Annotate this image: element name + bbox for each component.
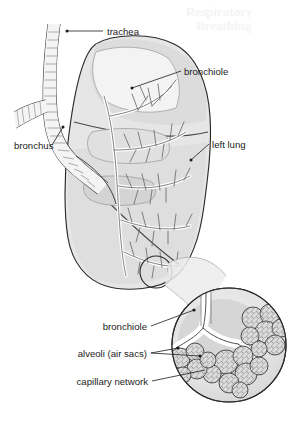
page-bleed-through: Respiratory Breathing (186, 4, 253, 33)
alveoli-label-text: alveoli (air sacs) (78, 348, 147, 359)
respiratory-system-diagram: Respiratory Breathing (0, 0, 292, 427)
bronchiole-upper-label-text: bronchiole (184, 66, 228, 77)
ghost-text-line2: Breathing (196, 18, 252, 33)
trachea-label-text: trachea (107, 26, 140, 37)
capillary-network-label-text: capillary network (77, 376, 149, 387)
bronchus-label-text: bronchus (14, 140, 54, 151)
left-lung-label-text: left lung (212, 139, 246, 150)
label-trachea: trachea (66, 26, 140, 37)
ghost-text-line1: Respiratory (186, 4, 253, 19)
alveoli-inset (161, 288, 290, 402)
bronchiole-inset-label-text: bronchiole (103, 321, 147, 332)
